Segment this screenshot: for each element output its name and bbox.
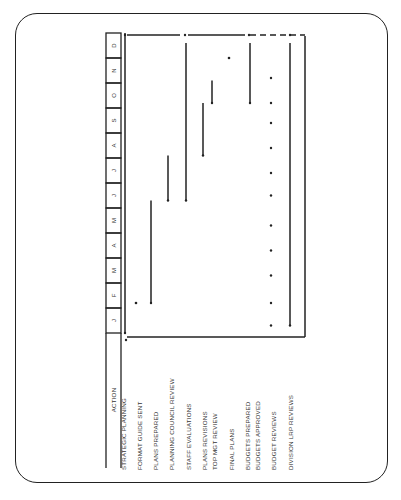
row-label-top-mgt-review: TOP MGT REVIEW	[211, 413, 218, 470]
milestone-budgets-approved	[270, 102, 272, 104]
row-label-planning-council-review: PLANNING COUNCIL REVIEW	[168, 378, 175, 470]
action-header: ACTION	[110, 388, 117, 413]
month-label: O	[111, 93, 117, 98]
milestone-budgets-approved	[270, 302, 272, 304]
row-label-strategic-planning: STRATEGIC PLANNING	[120, 398, 127, 470]
milestone-budgets-approved	[270, 224, 272, 226]
milestone-budgets-approved	[270, 249, 272, 251]
milestone-budgets-approved	[270, 172, 272, 174]
month-label: M	[111, 218, 117, 223]
milestone-budgets-approved	[270, 274, 272, 276]
row-label-division-lrp-reviews: DIVISION LRP REVIEWS	[287, 395, 294, 470]
milestone-budgets-approved	[270, 194, 272, 196]
bar-start-dot	[185, 199, 187, 201]
row-label-budgets-approved: BUDGETS APPROVED	[254, 401, 261, 470]
row-label-plans-prepared: PLANS PREPARED	[152, 411, 159, 470]
milestone-budgets-approved	[270, 324, 272, 326]
month-label: J	[111, 169, 117, 172]
bar-start-dot	[167, 199, 169, 201]
month-label: D	[111, 43, 117, 48]
month-label: N	[111, 68, 117, 72]
start-dot	[125, 339, 127, 341]
bar-start-dot	[289, 324, 291, 326]
boundary-dot	[248, 34, 250, 36]
month-label: J	[111, 194, 117, 197]
month-label: M	[111, 268, 117, 273]
row-label-budget-reviews: BUDGET REVIEWS	[270, 411, 277, 470]
month-label: A	[111, 243, 117, 247]
milestone-format-guide-sent	[135, 302, 138, 305]
milestone-budgets-approved	[270, 122, 272, 124]
bar-start-dot	[211, 102, 213, 104]
milestone-final-plans	[228, 57, 231, 60]
month-label: F	[111, 293, 117, 297]
bar-start-dot	[150, 302, 152, 304]
row-label-staff-evaluations: STAFF EVALUATIONS	[185, 403, 192, 470]
gantt-chart: JFMAMJJASONDACTIONSTRATEGIC PLANNINGFORM…	[0, 0, 401, 500]
month-label: A	[111, 143, 117, 147]
bar-start-dot	[124, 332, 126, 334]
boundary-dot	[289, 34, 291, 36]
month-label: S	[111, 118, 117, 122]
boundary-dot	[184, 34, 186, 36]
milestone-budgets-approved	[270, 147, 272, 149]
row-label-final-plans: FINAL PLANS	[228, 428, 235, 470]
row-label-budgets-prepared: BUDGETS PREPARED	[244, 401, 251, 470]
row-label-format-guide-sent: FORMAT GUIDE SENT	[136, 401, 143, 470]
row-label-plans-revisions: PLANS REVISIONS	[201, 411, 208, 470]
month-label: J	[111, 319, 117, 322]
bar-start-dot	[202, 154, 204, 156]
milestone-budgets-approved	[270, 77, 272, 79]
bar-start-dot	[249, 102, 251, 104]
